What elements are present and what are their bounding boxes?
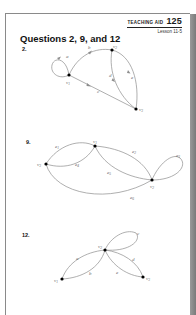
vertex-label-v1: v1 bbox=[66, 80, 70, 86]
edge-c bbox=[69, 75, 136, 109]
vertex-v1 bbox=[60, 277, 63, 280]
arrow-icon bbox=[127, 70, 131, 74]
edge-d bbox=[105, 250, 143, 277]
arrow-icon bbox=[57, 57, 61, 61]
edge-e3 bbox=[152, 157, 183, 180]
edge-label-b: b bbox=[89, 271, 92, 276]
edge-label-d: d bbox=[109, 73, 112, 78]
edge-label-c: c bbox=[97, 89, 100, 94]
edge-e2 bbox=[95, 146, 152, 180]
vertex-v2 bbox=[103, 248, 106, 251]
edge-e bbox=[112, 50, 137, 109]
edge-e5 bbox=[95, 146, 152, 180]
vertex-v1 bbox=[67, 73, 70, 76]
edge-label-e5: e5 bbox=[107, 170, 111, 176]
vertex-label-v3: v3 bbox=[146, 276, 150, 282]
vertex-label-v1: v1 bbox=[54, 278, 58, 284]
edge-e bbox=[105, 250, 143, 277]
arrow-icon bbox=[87, 83, 92, 87]
edge-label-b: b bbox=[88, 45, 91, 50]
vertex-label-v3: v3 bbox=[139, 107, 143, 113]
edge-label-c: c bbox=[137, 231, 140, 236]
vertex-v2 bbox=[150, 178, 153, 181]
edge-b bbox=[62, 250, 105, 279]
vertex-label-v2: v2 bbox=[113, 44, 117, 50]
edge-c bbox=[105, 232, 138, 251]
edge-label-e2: e2 bbox=[132, 149, 136, 155]
edge-label-e3: e3 bbox=[176, 153, 180, 159]
graph-figures: a b c d e v1 v2 v3 e1 e2 e3 e4 e5 e6 v1 bbox=[0, 0, 196, 315]
edge-label-e4: e4 bbox=[75, 162, 79, 168]
graph-question-2: a b c d e v1 v2 v3 bbox=[52, 44, 143, 113]
graph-question-9: e1 e2 e3 e4 e5 e6 v1 v2 v3 bbox=[37, 139, 183, 201]
edge-e4 bbox=[46, 146, 95, 166]
vertex-label-v2: v2 bbox=[98, 244, 102, 250]
arrow-icon bbox=[88, 51, 92, 55]
edge-a bbox=[52, 60, 69, 77]
edge-label-e6: e6 bbox=[130, 195, 134, 201]
vertex-label-v3: v3 bbox=[37, 162, 41, 168]
edge-label-a: a bbox=[66, 54, 69, 59]
edge-label-e: e bbox=[116, 270, 119, 275]
vertex-v3 bbox=[44, 162, 47, 165]
vertex-label-v1: v1 bbox=[93, 139, 97, 145]
edge-label-e1: e1 bbox=[55, 144, 59, 150]
edge-e6 bbox=[46, 164, 152, 194]
graph-question-12: a b c d e v1 v2 v3 bbox=[54, 231, 150, 284]
vertex-v3 bbox=[141, 275, 144, 278]
edge-e1 bbox=[46, 143, 95, 164]
edge-label-e: e bbox=[131, 75, 134, 80]
vertex-label-v2: v2 bbox=[150, 184, 154, 190]
edge-a bbox=[62, 250, 105, 279]
edge-label-d: d bbox=[132, 257, 135, 262]
vertex-v3 bbox=[134, 107, 137, 110]
